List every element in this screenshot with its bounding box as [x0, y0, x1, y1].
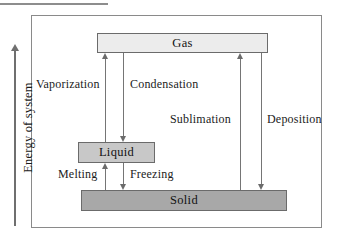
phase-label-liquid: Liquid — [99, 145, 134, 160]
freezing-arrow-line — [123, 163, 124, 184]
sublimation-arrow-line — [240, 59, 241, 190]
vaporization-arrowhead-icon — [102, 53, 108, 59]
energy-axis-line — [14, 48, 16, 226]
melting-arrow-line — [105, 169, 106, 190]
transition-label-deposition: Deposition — [267, 112, 322, 127]
condensation-arrow-line — [123, 53, 124, 136]
melting-arrowhead-icon — [102, 163, 108, 169]
phase-box-liquid[interactable]: Liquid — [78, 142, 155, 163]
phase-box-gas[interactable]: Gas — [97, 33, 268, 53]
sublimation-arrowhead-icon — [237, 53, 243, 59]
transition-label-condensation: Condensation — [130, 77, 198, 92]
transition-label-melting: Melting — [58, 167, 97, 182]
vaporization-arrow-line — [105, 59, 106, 142]
deposition-arrow-line — [261, 53, 262, 184]
transition-label-freezing: Freezing — [130, 167, 174, 182]
phase-label-solid: Solid — [170, 193, 198, 208]
phase-change-diagram: Energy of system Gas Liquid Solid Vapori… — [0, 0, 337, 241]
transition-label-vaporization: Vaporization — [36, 77, 100, 92]
phase-label-gas: Gas — [172, 36, 192, 51]
transition-label-sublimation: Sublimation — [170, 112, 231, 127]
top-divider-rule — [0, 3, 108, 5]
energy-axis-label: Energy of system — [21, 48, 36, 208]
phase-box-solid[interactable]: Solid — [81, 190, 287, 211]
